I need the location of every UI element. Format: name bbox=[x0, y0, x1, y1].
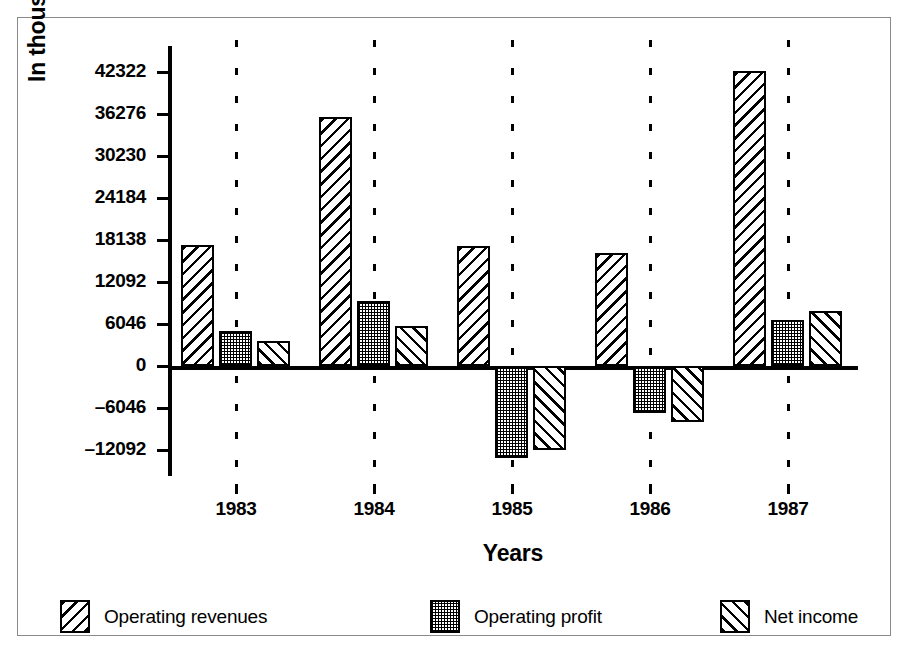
legend-swatch-icon bbox=[60, 600, 90, 633]
legend-swatch-icon bbox=[720, 600, 750, 633]
bar-1987-operating-profit bbox=[771, 320, 804, 366]
y-axis-tick bbox=[157, 281, 172, 284]
legend-item-net-income[interactable]: Net income bbox=[720, 600, 858, 633]
legend-swatch-icon bbox=[430, 600, 460, 633]
x-axis-tick-label-1986: 1986 bbox=[590, 498, 710, 520]
chart-figure: In thousands of dollars 4232236276302302… bbox=[0, 0, 911, 672]
y-axis-tick bbox=[157, 449, 172, 452]
y-axis-tick bbox=[157, 71, 172, 74]
y-axis-tick-label: 42322 bbox=[0, 61, 146, 80]
y-axis-tick-label: 0 bbox=[0, 355, 146, 374]
y-axis-tick-label: 30230 bbox=[0, 145, 146, 164]
x-axis-tick bbox=[511, 484, 514, 494]
bar-1984-operating-profit bbox=[357, 301, 390, 366]
bar-1986-net-income bbox=[671, 366, 704, 422]
legend-label: Net income bbox=[764, 606, 858, 628]
chart-legend: Operating revenuesOperating profitNet in… bbox=[60, 600, 860, 640]
legend-label: Operating profit bbox=[474, 606, 602, 628]
bar-1983-operating-revenues bbox=[181, 245, 214, 366]
legend-item-operating-profit[interactable]: Operating profit bbox=[430, 600, 602, 633]
legend-item-operating-revenues[interactable]: Operating revenues bbox=[60, 600, 267, 633]
bar-1983-operating-profit bbox=[219, 331, 252, 366]
y-axis-line bbox=[168, 46, 172, 476]
y-axis-tick bbox=[157, 113, 172, 116]
group-divider bbox=[373, 40, 376, 492]
y-axis-tick bbox=[157, 239, 172, 242]
y-axis-tick bbox=[157, 197, 172, 200]
group-divider bbox=[787, 40, 790, 492]
y-axis-tick-label: 12092 bbox=[0, 271, 146, 290]
x-axis-tick-label-1984: 1984 bbox=[314, 498, 434, 520]
x-axis-title: Years bbox=[168, 540, 858, 567]
bar-1986-operating-profit bbox=[633, 366, 666, 413]
legend-label: Operating revenues bbox=[104, 606, 267, 628]
bar-1987-net-income bbox=[809, 311, 842, 366]
y-axis-tick-label: –6046 bbox=[0, 397, 146, 416]
bar-1984-operating-revenues bbox=[319, 117, 352, 366]
bar-1986-operating-revenues bbox=[595, 253, 628, 366]
bar-1985-operating-revenues bbox=[457, 246, 490, 366]
bar-1984-net-income bbox=[395, 326, 428, 366]
bar-1985-operating-profit bbox=[495, 366, 528, 458]
y-axis-tick-label: 36276 bbox=[0, 103, 146, 122]
y-axis-tick bbox=[157, 365, 172, 368]
x-axis-tick bbox=[235, 484, 238, 494]
y-axis-tick bbox=[157, 407, 172, 410]
x-axis-tick-label-1987: 1987 bbox=[728, 498, 848, 520]
group-divider bbox=[235, 40, 238, 492]
y-axis-tick bbox=[157, 155, 172, 158]
bar-1985-net-income bbox=[533, 366, 566, 450]
bar-1987-operating-revenues bbox=[733, 71, 766, 366]
y-axis-tick-label: 6046 bbox=[0, 313, 146, 332]
x-axis-tick bbox=[787, 484, 790, 494]
y-axis-tick-label: –12092 bbox=[0, 439, 146, 458]
plot-area: 42322362763023024184181381209260460–6046… bbox=[168, 46, 858, 476]
x-axis-tick bbox=[373, 484, 376, 494]
y-axis-tick-label: 24184 bbox=[0, 187, 146, 206]
x-axis-tick-label-1983: 1983 bbox=[176, 498, 296, 520]
group-divider bbox=[649, 40, 652, 492]
bar-1983-net-income bbox=[257, 341, 290, 366]
y-axis-tick bbox=[157, 323, 172, 326]
y-axis-tick-label: 18138 bbox=[0, 229, 146, 248]
x-axis-tick-label-1985: 1985 bbox=[452, 498, 572, 520]
x-axis-tick bbox=[649, 484, 652, 494]
